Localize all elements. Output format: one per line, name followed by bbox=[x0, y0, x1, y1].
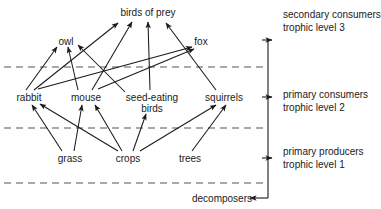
label-primary-producers-line1: primary producers bbox=[283, 145, 364, 158]
node-grass[interactable]: grass bbox=[58, 153, 82, 164]
arrow-seed-eating-birds-to-birds-of-prey bbox=[148, 22, 150, 90]
node-fox[interactable]: fox bbox=[194, 36, 207, 47]
label-trophic-level-2: trophic level 2 bbox=[283, 101, 368, 114]
label-trophic-level-1: trophic level 1 bbox=[283, 158, 364, 171]
label-primary-consumers: primary consumers trophic level 2 bbox=[283, 88, 368, 114]
label-secondary-consumers-line1: secondary consumers bbox=[283, 8, 381, 21]
node-squirrels[interactable]: squirrels bbox=[205, 92, 243, 103]
label-primary-consumers-line1: primary consumers bbox=[283, 88, 368, 101]
node-mouse[interactable]: mouse bbox=[71, 92, 101, 103]
label-secondary-consumers: secondary consumers trophic level 3 bbox=[283, 8, 381, 34]
node-decomposers[interactable]: decomposers bbox=[192, 193, 252, 204]
arrow-squirrels-to-birds-of-prey bbox=[166, 23, 216, 90]
arrow-mouse-to-owl bbox=[68, 47, 78, 90]
node-owl[interactable]: owl bbox=[58, 36, 73, 47]
arrow-seed-eating-birds-to-owl bbox=[78, 45, 125, 92]
arrow-crops-to-seed-eating-birds bbox=[133, 114, 146, 151]
node-rabbit[interactable]: rabbit bbox=[16, 92, 41, 103]
node-birds-of-prey[interactable]: birds of prey bbox=[120, 7, 175, 18]
dashed-divider-group bbox=[4, 67, 264, 183]
trophic-bracket bbox=[250, 40, 272, 198]
label-primary-producers: primary producers trophic level 1 bbox=[283, 145, 364, 171]
node-crops[interactable]: crops bbox=[116, 153, 140, 164]
node-trees[interactable]: trees bbox=[179, 153, 201, 164]
node-seed-eating-birds[interactable]: seed-eating birds bbox=[122, 92, 182, 114]
arrow-mouse-to-birds-of-prey bbox=[92, 22, 132, 90]
label-trophic-level-3: trophic level 3 bbox=[283, 21, 381, 34]
